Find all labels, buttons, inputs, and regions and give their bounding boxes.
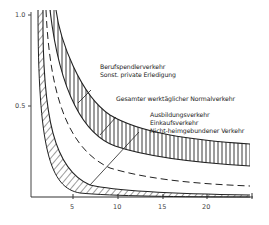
x-tick-label-10: 10	[113, 203, 121, 211]
annotation-line: Sonst. private Erledigung	[100, 71, 176, 79]
chart: 1.0 0.5 5 10 15 20 Berufspendlerverkehr …	[0, 0, 269, 225]
upper-band	[50, 10, 250, 166]
annotation-line: Nicht-heimgebundener Verkehr	[150, 127, 244, 135]
annotation-line: Einkaufsverkehr	[150, 119, 244, 127]
annotation-lower-band: Ausbildungsverkehr Einkaufsverkehr Nicht…	[150, 111, 244, 135]
y-axis	[28, 12, 31, 197]
x-tick-label-20: 20	[202, 203, 210, 211]
annotation-upper-band: Berufspendlerverkehr Sonst. private Erle…	[100, 63, 176, 79]
x-tick-label-15: 15	[158, 203, 166, 211]
annotation-line: Gesamter werktäglicher Normalverkehr	[116, 95, 235, 103]
x-tick-label-5: 5	[70, 203, 74, 211]
annotation-line: Berufspendlerverkehr	[100, 63, 176, 71]
y-tick-label-05: 0.5	[15, 102, 25, 110]
annotation-middle-curve: Gesamter werktäglicher Normalverkehr	[116, 95, 235, 103]
y-tick-label-1: 1.0	[15, 11, 25, 19]
annotation-line: Ausbildungsverkehr	[150, 111, 244, 119]
